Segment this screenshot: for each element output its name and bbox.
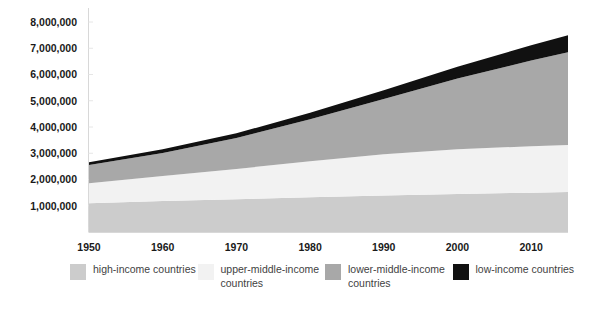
legend-label-upper-middle-income: upper-middle-income countries: [221, 263, 325, 290]
y-axis-tick-label: 3,000,000: [30, 147, 77, 159]
x-axis-tick-label: 1980: [298, 241, 322, 253]
legend-label-low-income: low-income countries: [476, 263, 575, 277]
stacked-area-chart: 1,000,0002,000,0003,000,0004,000,0005,00…: [0, 0, 594, 317]
legend-item-lower-middle-income[interactable]: lower-middle-income countries: [325, 263, 453, 290]
legend-item-upper-middle-income[interactable]: upper-middle-income countries: [198, 263, 326, 290]
legend-swatch-lower-middle-income: [325, 264, 341, 280]
x-axis-tick-label: 2000: [446, 241, 470, 253]
x-axis-tick-label: 1950: [77, 241, 101, 253]
legend-swatch-high-income: [70, 264, 86, 280]
legend-label-high-income: high-income countries: [93, 263, 196, 277]
y-axis-tick-label: 6,000,000: [30, 68, 77, 80]
legend-swatch-upper-middle-income: [198, 264, 214, 280]
legend-label-lower-middle-income: lower-middle-income countries: [348, 263, 452, 290]
legend-item-high-income[interactable]: high-income countries: [70, 263, 198, 280]
chart-canvas: 1,000,0002,000,0003,000,0004,000,0005,00…: [0, 0, 594, 258]
legend-swatch-low-income: [453, 264, 469, 280]
x-axis-tick-label: 2010: [519, 241, 543, 253]
stacked-bands: [89, 35, 568, 232]
y-axis-tick-label: 7,000,000: [30, 42, 77, 54]
x-axis-tick-label: 1990: [372, 241, 396, 253]
y-axis-tick-label: 2,000,000: [30, 173, 77, 185]
plot-area: 1,000,0002,000,0003,000,0004,000,0005,00…: [0, 0, 594, 258]
y-axis-tick-label: 1,000,000: [30, 200, 77, 212]
x-axis-tick-label: 1970: [225, 241, 249, 253]
chart-legend: high-income countries upper-middle-incom…: [70, 263, 580, 290]
y-axis-tick-label: 8,000,000: [30, 16, 77, 28]
y-axis-tick-label: 5,000,000: [30, 95, 77, 107]
legend-item-low-income[interactable]: low-income countries: [453, 263, 581, 280]
x-axis-tick-label: 1960: [151, 241, 175, 253]
y-axis-tick-label: 4,000,000: [30, 121, 77, 133]
